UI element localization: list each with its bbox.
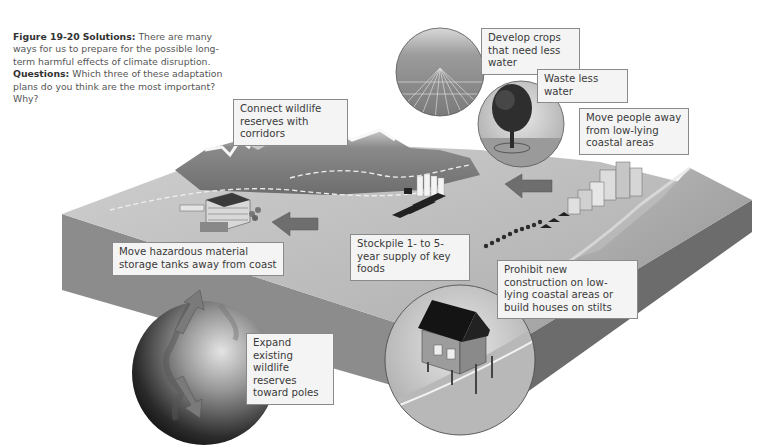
label-prohibit-construction: Prohibit new construction on low-lying c…: [497, 260, 638, 319]
label-hazardous-storage: Move hazardous material storage tanks aw…: [112, 242, 284, 276]
label-waste-less-water: Waste less water: [537, 69, 628, 103]
caption-questions-heading: Questions:: [13, 68, 69, 79]
figure-caption: Figure 19-20 Solutions: There are many w…: [13, 31, 223, 105]
label-expand-reserves: Expand existing wildlife reserves toward…: [246, 333, 334, 405]
figure-19-20: Figure 19-20 Solutions: There are many w…: [0, 0, 782, 446]
label-stockpile-foods: Stockpile 1- to 5-year supply of key foo…: [350, 234, 470, 281]
label-connect-reserves: Connect wildlife reserves with corridors: [233, 99, 348, 146]
caption-solutions-heading: Solutions:: [83, 31, 136, 42]
crop-field-inset: [390, 28, 495, 120]
label-develop-crops: Develop crops that need less water: [481, 28, 580, 75]
label-move-people: Move people away from low-lying coastal …: [579, 108, 689, 155]
figure-number: Figure 19-20: [13, 31, 80, 42]
